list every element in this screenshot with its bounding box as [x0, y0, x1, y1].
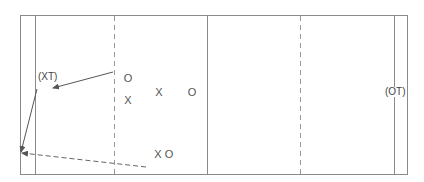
- player-x-3: X: [154, 149, 161, 160]
- player-o-2: O: [188, 87, 197, 98]
- player-o-1: O: [124, 73, 133, 84]
- ot-label: (OT): [385, 87, 406, 97]
- player-x-2: X: [155, 87, 162, 98]
- court-boundary: [21, 16, 408, 175]
- xt-run-arrow: [21, 89, 37, 152]
- dashed-pass-arrow: [22, 153, 146, 167]
- xt-label: (XT): [38, 72, 57, 82]
- pass-arrow-to-xt: [53, 72, 113, 88]
- player-x-1: X: [124, 95, 131, 106]
- player-o-3: O: [165, 149, 174, 160]
- court-diagram: [0, 0, 424, 182]
